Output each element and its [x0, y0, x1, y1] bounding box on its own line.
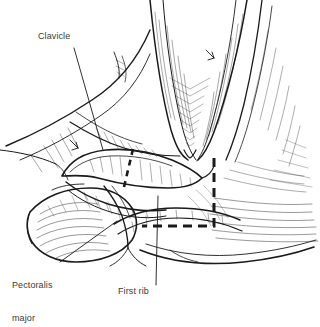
label-pectoralis-major-line2: major [12, 313, 53, 324]
label-pectoralis-major: Pectoralis major [12, 258, 53, 327]
clavicle-osteotomy-dashes [124, 149, 133, 187]
lateral-neck-muscle [226, 0, 312, 187]
leader-lines [60, 48, 158, 285]
sternocleidomastoid-muscle [150, 0, 247, 161]
label-pectoralis-major-line1: Pectoralis [12, 280, 53, 291]
pectoralis-major-muscle [27, 184, 136, 262]
label-clavicle: Clavicle [38, 31, 70, 42]
dashed-incision-line [142, 158, 214, 226]
label-first-rib: First rib [118, 286, 149, 297]
cervical-fascia [70, 52, 180, 157]
leader-clavicle [74, 48, 103, 150]
chest-wall [140, 162, 318, 264]
clavicle-bone [62, 149, 214, 188]
